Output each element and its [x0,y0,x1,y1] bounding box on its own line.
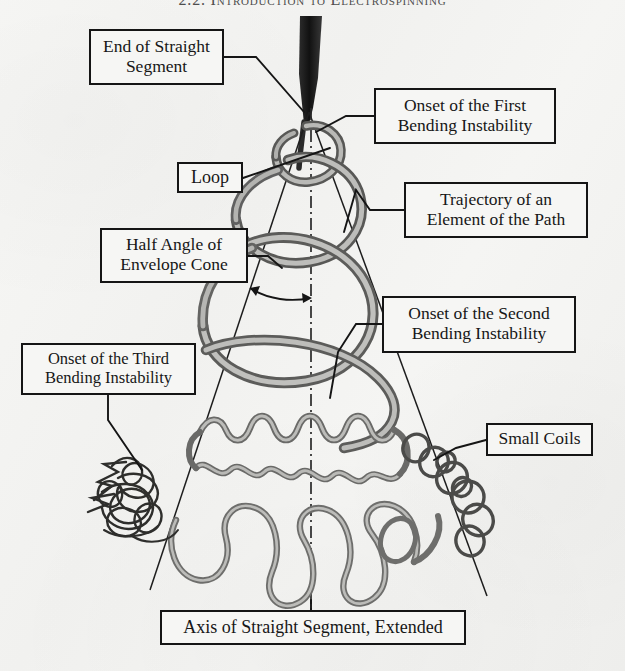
callout-small-coils[interactable]: Small Coils [486,423,593,456]
callout-trajectory-of-element[interactable]: Trajectory of an Element of the Path [404,182,588,238]
second-instability-coils [189,416,408,481]
leader-end-straight [224,57,304,112]
callout-loop[interactable]: Loop [177,162,243,193]
callout-half-angle-envelope-cone[interactable]: Half Angle of Envelope Cone [100,228,248,283]
callout-end-of-straight-segment[interactable]: End of Straight Segment [89,29,224,85]
third-instability-tangle [88,458,178,542]
lower-large-helix [171,504,439,606]
half-angle-arrow [250,286,312,303]
callout-onset-second-bending-instability[interactable]: Onset of the Second Bending Instability [382,296,576,353]
straight-jet-segment [299,16,322,168]
callout-onset-first-bending-instability[interactable]: Onset of the First Bending Instability [374,88,556,144]
callout-onset-third-bending-instability[interactable]: Onset of the Third Bending Instability [21,343,196,395]
callout-axis-of-straight-segment-extended[interactable]: Axis of Straight Segment, Extended [160,610,466,645]
